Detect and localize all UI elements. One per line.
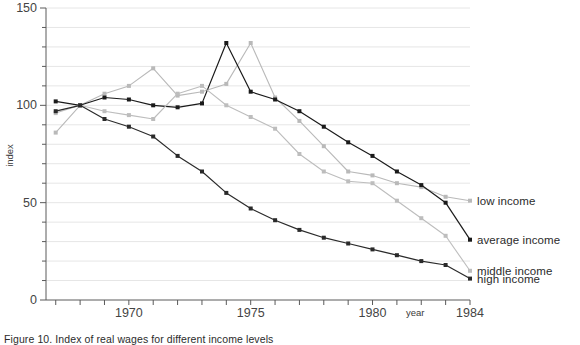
data-point (273, 218, 277, 222)
data-point (103, 109, 107, 113)
data-point (395, 181, 399, 185)
x-tick-label: 1984 (456, 306, 484, 320)
data-point (200, 101, 204, 105)
data-point (249, 115, 253, 119)
data-point (176, 154, 180, 158)
data-point (54, 109, 58, 113)
data-point (151, 117, 155, 121)
data-point (273, 127, 277, 131)
data-point (127, 113, 131, 117)
data-point (297, 152, 301, 156)
y-tick-label: 0 (0, 293, 37, 307)
legend-leader-line (446, 265, 470, 279)
data-point (54, 131, 58, 135)
x-axis-title: year (406, 307, 424, 318)
data-point (419, 216, 423, 220)
legend-label-high-income: high income (477, 273, 540, 285)
data-point (322, 125, 326, 129)
data-point (176, 92, 180, 96)
data-point (224, 191, 228, 195)
data-point (297, 228, 301, 232)
series-line-middle-income (56, 86, 446, 236)
data-point (200, 90, 204, 94)
legend-label-average-income: average income (477, 234, 560, 246)
data-point (322, 236, 326, 240)
x-tick-label: 1980 (359, 306, 387, 320)
data-point (273, 98, 277, 102)
data-point (395, 199, 399, 203)
data-point (127, 125, 131, 129)
x-tick-label: 1970 (115, 306, 143, 320)
data-point (249, 207, 253, 211)
legend-leader-line (446, 236, 470, 271)
data-point (322, 144, 326, 148)
data-point (346, 140, 350, 144)
data-point (224, 103, 228, 107)
legend-leader-line (446, 197, 470, 201)
series-line-average-income (56, 43, 446, 203)
data-point (127, 98, 131, 102)
data-point (322, 170, 326, 174)
data-point (346, 170, 350, 174)
series-line-high-income (56, 105, 446, 265)
data-point (297, 119, 301, 123)
data-point (176, 105, 180, 109)
data-point (200, 170, 204, 174)
legend-marker (468, 238, 472, 242)
figure-caption: Figure 10. Index of real wages for diffe… (4, 333, 273, 345)
data-point (54, 99, 58, 103)
data-point (224, 41, 228, 45)
legend-marker (468, 277, 472, 281)
data-point (371, 173, 375, 177)
legend-label-low-income: low income (477, 195, 536, 207)
y-tick-label: 50 (0, 196, 37, 210)
data-point (419, 259, 423, 263)
data-point (103, 92, 107, 96)
data-point (151, 103, 155, 107)
y-tick-label: 100 (0, 98, 37, 112)
data-point (249, 90, 253, 94)
legend-marker (468, 199, 472, 203)
y-axis-title: index (4, 136, 15, 176)
data-point (346, 179, 350, 183)
legend-marker (468, 269, 472, 273)
data-point (200, 84, 204, 88)
legend-leader-line (446, 203, 470, 240)
data-point (249, 41, 253, 45)
data-point (151, 135, 155, 139)
data-point (371, 181, 375, 185)
data-point (395, 170, 399, 174)
x-tick-label: 1975 (237, 306, 265, 320)
data-point (151, 66, 155, 70)
data-point (103, 96, 107, 100)
data-point (127, 84, 131, 88)
y-tick-label: 150 (0, 1, 37, 15)
data-point (224, 82, 228, 86)
data-point (371, 247, 375, 251)
data-point (395, 253, 399, 257)
data-point (419, 183, 423, 187)
data-point (297, 109, 301, 113)
data-point (78, 103, 82, 107)
data-point (103, 117, 107, 121)
data-point (346, 242, 350, 246)
data-point (371, 154, 375, 158)
